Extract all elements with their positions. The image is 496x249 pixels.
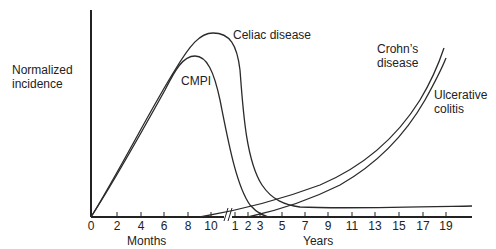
label-uc-line2: colitis <box>434 102 487 116</box>
x-axis-label-years: Years <box>303 234 333 248</box>
tick-year-9: 9 <box>325 219 332 233</box>
tick-year-7: 7 <box>302 219 309 233</box>
tick-year-5: 5 <box>279 219 286 233</box>
label-uc-line1: Ulcerative <box>434 88 487 102</box>
label-celiac-disease: Celiac disease <box>233 28 311 42</box>
tick-year-19: 19 <box>439 219 452 233</box>
label-crohns-line1: Crohn’s <box>377 42 418 56</box>
tick-month-2: 2 <box>114 219 121 233</box>
tick-month-8: 8 <box>185 219 192 233</box>
label-ulcerative-colitis: Ulcerative colitis <box>434 88 487 116</box>
tick-month-6: 6 <box>161 219 168 233</box>
tick-month-10: 10 <box>204 219 217 233</box>
tick-year-13: 13 <box>368 219 381 233</box>
tick-year-11: 11 <box>346 219 358 233</box>
tick-year-2: 2 <box>245 219 252 233</box>
tick-year-17: 17 <box>416 219 429 233</box>
x-axis-label-months: Months <box>127 234 166 248</box>
y-axis-label-line1: Normalized <box>12 63 73 77</box>
tick-year-3: 3 <box>257 219 264 233</box>
y-axis-label: Normalized incidence <box>12 63 73 91</box>
series-crohns-disease <box>200 48 444 217</box>
label-crohns-line2: disease <box>377 56 418 70</box>
tick-year-1: 1 <box>232 219 239 233</box>
tick-year-15: 15 <box>392 219 405 233</box>
tick-month-4: 4 <box>138 219 145 233</box>
series-ulcerative-colitis <box>248 58 446 217</box>
label-crohns-disease: Crohn’s disease <box>377 42 418 70</box>
y-axis-label-line2: incidence <box>12 77 73 91</box>
label-cmpi: CMPI <box>181 74 211 88</box>
tick-month-0: 0 <box>88 219 95 233</box>
